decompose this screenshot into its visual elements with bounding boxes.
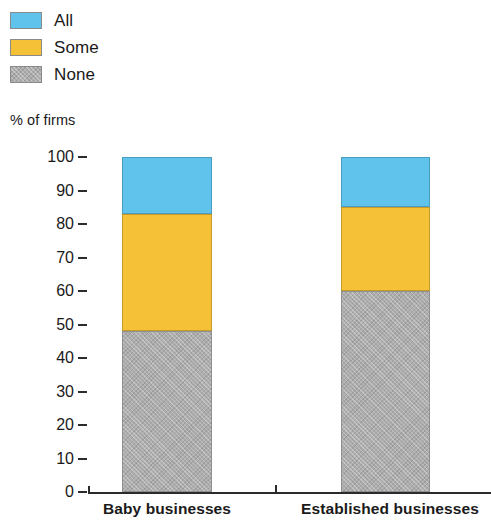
y-tick-label-20: 20 bbox=[0, 417, 74, 433]
y-tick-mark-40 bbox=[78, 357, 87, 359]
x-axis-label-baby-businesses: Baby businesses bbox=[82, 500, 252, 518]
bar-segment-some bbox=[341, 207, 430, 291]
plot-area: 100 90 80 70 60 50 40 30 20 10 0 bbox=[0, 0, 491, 525]
bar-baby-businesses bbox=[122, 157, 212, 492]
stacked-bar-chart: All Some None % of firms 100 90 80 70 60… bbox=[0, 0, 491, 525]
y-tick-label-50: 50 bbox=[0, 317, 74, 333]
y-tick-label-90: 90 bbox=[0, 183, 74, 199]
y-tick-mark-90 bbox=[78, 190, 87, 192]
y-tick-label-80: 80 bbox=[0, 216, 74, 232]
bar-segment-none bbox=[341, 291, 430, 492]
y-tick-mark-30 bbox=[78, 391, 87, 393]
bar-established-businesses bbox=[341, 157, 430, 492]
y-tick-mark-60 bbox=[78, 290, 87, 292]
y-tick-label-40: 40 bbox=[0, 350, 74, 366]
bar-segment-some bbox=[122, 214, 212, 331]
y-tick-mark-20 bbox=[78, 424, 87, 426]
y-tick-mark-0 bbox=[78, 491, 87, 493]
bar-segment-none bbox=[122, 331, 212, 492]
y-tick-label-70: 70 bbox=[0, 250, 74, 266]
y-tick-mark-50 bbox=[78, 324, 87, 326]
y-tick-mark-80 bbox=[78, 223, 87, 225]
x-axis-label-established-businesses: Established businesses bbox=[292, 500, 488, 518]
y-tick-label-60: 60 bbox=[0, 283, 74, 299]
y-tick-mark-10 bbox=[78, 458, 87, 460]
x-axis-line bbox=[88, 492, 491, 494]
x-axis-mid-tick bbox=[275, 485, 277, 493]
bar-segment-all bbox=[341, 157, 430, 207]
y-tick-label-0: 0 bbox=[0, 484, 74, 500]
y-tick-mark-100 bbox=[78, 156, 87, 158]
x-axis-origin-tick bbox=[88, 486, 90, 494]
y-tick-label-100: 100 bbox=[0, 149, 74, 165]
y-tick-mark-70 bbox=[78, 257, 87, 259]
y-tick-label-10: 10 bbox=[0, 451, 74, 467]
bar-segment-all bbox=[122, 157, 212, 214]
y-tick-label-30: 30 bbox=[0, 384, 74, 400]
